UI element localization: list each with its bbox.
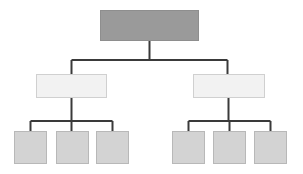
- tree-diagram-canvas: [0, 0, 303, 174]
- connector-group-right-branch: [189, 98, 271, 131]
- node-leaf-left-2[interactable]: [56, 131, 89, 164]
- node-branch-left[interactable]: [36, 74, 107, 98]
- node-leaf-right-3[interactable]: [254, 131, 287, 164]
- node-leaf-left-2-label: [57, 132, 88, 163]
- node-branch-right-label: [194, 75, 264, 97]
- node-leaf-right-2[interactable]: [213, 131, 246, 164]
- connector-group-root: [72, 41, 228, 74]
- node-leaf-right-1-label: [173, 132, 204, 163]
- node-leaf-left-3-label: [97, 132, 128, 163]
- node-root[interactable]: [100, 10, 199, 41]
- node-leaf-right-3-label: [255, 132, 286, 163]
- node-leaf-left-1[interactable]: [14, 131, 47, 164]
- connector-group-left-branch: [31, 98, 113, 131]
- node-leaf-right-1[interactable]: [172, 131, 205, 164]
- node-leaf-left-3[interactable]: [96, 131, 129, 164]
- node-leaf-left-1-label: [15, 132, 46, 163]
- node-branch-right[interactable]: [193, 74, 265, 98]
- node-leaf-right-2-label: [214, 132, 245, 163]
- node-root-label: [101, 11, 198, 40]
- node-branch-left-label: [37, 75, 106, 97]
